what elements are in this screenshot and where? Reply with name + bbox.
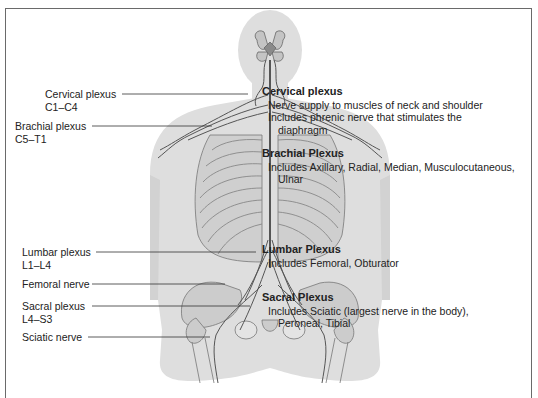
label-sciatic-nerve: Sciatic nerve [22, 331, 82, 344]
desc-cervical-plexus: Cervical plexus Nerve supply to muscles … [262, 85, 483, 136]
label-range: L4–S3 [22, 313, 85, 326]
desc-heading: Sacral Plexus [262, 291, 469, 304]
label-lumbar-plexus: Lumbar plexus L1–L4 [22, 246, 91, 271]
desc-heading: Lumbar Plexus [262, 243, 399, 256]
label-name: Sciatic nerve [22, 331, 82, 344]
desc-sacral-plexus: Sacral Plexus Includes Sciatic (largest … [262, 291, 469, 330]
desc-heading: Cervical plexus [262, 85, 483, 98]
label-name: Cervical plexus [45, 88, 116, 101]
label-name: Sacral plexus [22, 300, 85, 313]
label-range: L1–L4 [22, 259, 91, 272]
desc-lumbar-plexus: Lumbar Plexus Includes Femoral, Obturato… [262, 243, 399, 269]
desc-heading: Brachial Plexus [262, 147, 515, 160]
desc-line: Includes phrenic nerve that stimulates t… [262, 111, 483, 124]
desc-line: diaphragm [262, 124, 483, 137]
desc-line: Nerve supply to muscles of neck and shou… [262, 99, 483, 112]
label-name: Femoral nerve [22, 278, 90, 291]
label-range: C5–T1 [15, 133, 86, 146]
label-range: C1–C4 [45, 101, 116, 114]
desc-line: Ulnar [262, 173, 515, 186]
label-cervical-plexus: Cervical plexus C1–C4 [45, 88, 116, 113]
label-name: Lumbar plexus [22, 246, 91, 259]
label-name: Brachial plexus [15, 120, 86, 133]
label-sacral-plexus: Sacral plexus L4–S3 [22, 300, 85, 325]
desc-line: Peroneal, Tibial [262, 317, 469, 330]
desc-line: Includes Sciatic (largest nerve in the b… [262, 305, 469, 318]
desc-line: Includes Femoral, Obturator [262, 257, 399, 270]
label-femoral-nerve: Femoral nerve [22, 278, 90, 291]
desc-brachial-plexus: Brachial Plexus Includes Axillary, Radia… [262, 147, 515, 186]
desc-line: Includes Axillary, Radial, Median, Muscu… [262, 161, 515, 174]
label-brachial-plexus: Brachial plexus C5–T1 [15, 120, 86, 145]
